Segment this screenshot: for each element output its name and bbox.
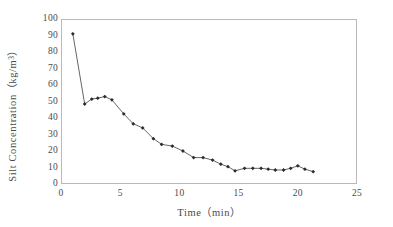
data-point-marker [282, 168, 286, 172]
x-axis-tick-label: 15 [224, 189, 254, 199]
y-axis-tick-label: 80 [32, 47, 58, 57]
y-axis-unit-exponent: 3 [7, 56, 16, 60]
y-axis-tick-label: 60 [32, 80, 58, 90]
data-point-marker [273, 168, 277, 172]
y-axis-tick-label: 50 [32, 97, 58, 107]
y-axis-tick-label: 90 [32, 31, 58, 41]
y-axis-tick-label: 70 [32, 64, 58, 74]
x-axis-tick-label: 10 [164, 189, 194, 199]
y-axis-tick-label: 10 [32, 163, 58, 173]
data-point-marker [243, 166, 247, 170]
data-point-marker [251, 166, 255, 170]
data-point-marker [226, 165, 230, 169]
x-axis-tick-label: 0 [46, 189, 76, 199]
x-axis-title: Time（min） [61, 204, 357, 219]
silt-concentration-line [73, 34, 313, 172]
data-point-marker [303, 167, 307, 171]
data-point-marker [201, 156, 205, 160]
y-axis-tick-label: 0 [32, 179, 58, 189]
data-point-marker [233, 169, 237, 173]
x-axis-tick-labels: 0510152025 [0, 189, 393, 203]
data-point-markers [71, 32, 315, 174]
x-axis-tick-label: 20 [283, 189, 313, 199]
data-series-line [61, 19, 357, 184]
data-point-marker [219, 162, 223, 166]
data-point-marker [296, 164, 300, 168]
y-axis-tick-label: 100 [32, 14, 58, 24]
data-point-marker [103, 95, 107, 99]
x-axis-tick-label: 25 [342, 189, 372, 199]
x-axis-tick-label: 5 [105, 189, 135, 199]
data-point-marker [71, 32, 75, 36]
data-point-marker [170, 144, 174, 148]
y-axis-title-text: Silt Concentration（kg/m [4, 60, 19, 182]
data-point-marker [311, 170, 315, 174]
y-axis-tick-label: 40 [32, 113, 58, 123]
y-axis-tick-label: 20 [32, 146, 58, 156]
y-axis-title-tail: ） [4, 45, 19, 56]
chart-figure: Silt Concentration（kg/m3） 01020304050607… [0, 0, 393, 227]
y-axis-tick-label: 30 [32, 130, 58, 140]
data-point-marker [289, 166, 293, 170]
data-point-marker [96, 96, 100, 100]
data-point-marker [211, 158, 215, 162]
data-point-marker [266, 167, 270, 171]
data-point-marker [259, 166, 263, 170]
